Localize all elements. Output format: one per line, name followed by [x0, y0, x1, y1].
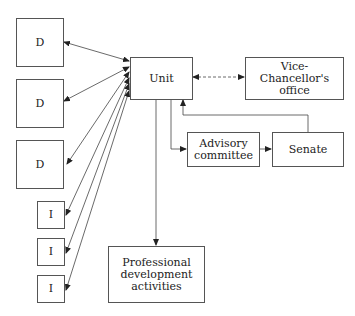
d-label-1: D — [36, 37, 45, 49]
unit-box: Unit — [130, 57, 193, 100]
advisory-committee-label: Advisory committee — [192, 138, 255, 162]
i-box-3: I — [37, 275, 65, 303]
i-label-1: I — [49, 209, 53, 221]
d-label-2: D — [36, 98, 45, 110]
senate-label: Senate — [289, 144, 328, 156]
i-box-2: I — [37, 238, 65, 266]
i-label-3: I — [49, 283, 53, 295]
i-label-2: I — [49, 246, 53, 258]
d-box-3: D — [16, 140, 64, 189]
unit-label: Unit — [149, 73, 173, 85]
i-box-1: I — [37, 201, 65, 229]
vc-office-box: Vice-Chancellor's office — [245, 57, 344, 100]
d-label-3: D — [36, 159, 45, 171]
professional-development-box: Professional development activities — [108, 246, 205, 303]
d-box-1: D — [16, 18, 64, 67]
senate-box: Senate — [272, 132, 344, 167]
d-box-2: D — [16, 79, 64, 128]
advisory-committee-box: Advisory committee — [187, 132, 260, 167]
professional-development-label: Professional development activities — [115, 257, 198, 293]
vc-office-label: Vice-Chancellor's office — [250, 61, 339, 97]
